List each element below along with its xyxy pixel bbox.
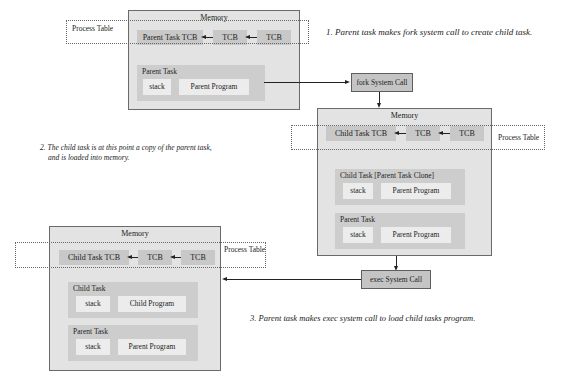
stack-cell: stack (76, 339, 110, 355)
task-parent: Parent Task stack Parent Program (335, 213, 465, 249)
stack-cell: stack (76, 296, 110, 312)
task-title: Child Task [Parent Task Clone] (340, 171, 434, 180)
step-3-note: 3. Parent task makes exec system call to… (250, 313, 475, 323)
program-cell: Parent Program (381, 227, 451, 243)
step-2-note-line2: and is loaded into memory. (48, 153, 129, 162)
stack-cell: stack (343, 183, 373, 199)
task-parent: Parent Task stack Parent Program (68, 325, 198, 361)
task-title: Child Task (73, 284, 105, 293)
step-1-note: 1. Parent task makes fork system call to… (326, 27, 532, 37)
program-cell: Parent Program (118, 339, 186, 355)
task-title: Parent Task (340, 215, 375, 224)
connector-line (226, 279, 361, 280)
process-table-label: Process Table (498, 133, 539, 142)
memory-title: Memory (50, 229, 220, 238)
program-cell: Parent Program (179, 79, 249, 95)
program-cell: Child Program (118, 296, 186, 312)
process-table-2: Process Table (291, 125, 545, 150)
stack-cell: stack (343, 227, 373, 243)
process-table-label: Process Table (224, 245, 265, 254)
arrow-right-icon (345, 80, 350, 84)
exec-syscall-box: exec System Call (361, 270, 431, 289)
task-child: Child Task stack Child Program (68, 282, 198, 318)
stack-cell: stack (143, 79, 171, 95)
task-parent: Parent Task stack Parent Program (137, 65, 265, 101)
memory-title: Memory (318, 111, 491, 120)
connector-line (264, 82, 346, 83)
process-table-1: Process Table (66, 20, 309, 44)
program-cell: Parent Program (381, 183, 451, 199)
process-table-label: Process Table (72, 24, 113, 33)
arrow-left-icon (222, 277, 227, 281)
process-table-3: Process Table (15, 242, 266, 268)
step-2-note: 2. The child task is at this point a cop… (40, 143, 212, 152)
task-title: Parent Task (142, 67, 177, 76)
fork-syscall-box: fork System Call (351, 73, 413, 92)
task-title: Parent Task (73, 327, 108, 336)
task-child-clone: Child Task [Parent Task Clone] stack Par… (335, 169, 465, 205)
